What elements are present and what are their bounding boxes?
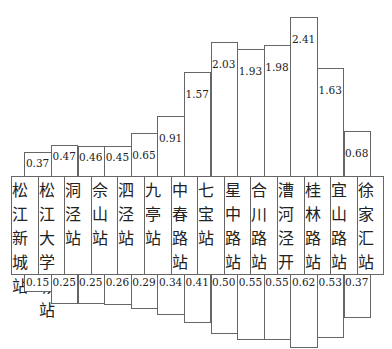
lower-bar-value: 0.53 <box>317 276 344 288</box>
station-label-box: 星中路站 <box>224 176 252 275</box>
lower-bar-value: 0.41 <box>184 276 211 288</box>
upper-bar-value: 1.98 <box>264 61 291 73</box>
station-label-box: 漕河泾开发区 <box>277 176 305 275</box>
station-label-box: 徐家汇站 <box>357 176 385 275</box>
lower-bar-value: 0.15 <box>24 276 51 288</box>
upper-bar-value: 2.03 <box>211 58 238 70</box>
upper-bar-value: 1.93 <box>237 65 264 77</box>
lower-bar-value: 0.25 <box>51 276 78 288</box>
station-name: 佘山站 <box>92 177 118 274</box>
upper-bar-value: 2.41 <box>290 33 317 45</box>
station-name: 洞泾站 <box>65 177 91 274</box>
lower-bar-value: 0.34 <box>157 276 184 288</box>
station-name: 松江新城站 <box>12 177 38 274</box>
lower-bar-value: 0.62 <box>290 276 317 288</box>
station-label-box: 松江新城站 <box>11 176 39 275</box>
upper-bar <box>157 116 185 177</box>
lower-bar-value: 0.29 <box>131 276 158 288</box>
upper-bar-value: 0.68 <box>344 147 371 159</box>
bidirectional-bar-chart: 松江新城站松江大学城站洞泾站佘山站泗泾站九亭站中春路站七宝站星中路站合川路站漕河… <box>0 0 392 349</box>
lower-bar-value: 0.55 <box>264 276 291 288</box>
station-label-box: 七宝站 <box>197 176 225 275</box>
upper-bar-value: 0.37 <box>24 157 51 169</box>
upper-bar-value: 0.46 <box>78 151 105 163</box>
station-name: 合川路站 <box>251 177 277 274</box>
station-name: 松江大学城站 <box>39 177 65 274</box>
upper-bar-value: 0.47 <box>51 150 78 162</box>
station-name: 漕河泾开发区 <box>278 177 304 274</box>
upper-bar-value: 1.63 <box>317 84 344 96</box>
lower-bar-value: 0.55 <box>237 276 264 288</box>
station-label-box: 九亭站 <box>144 176 172 275</box>
lower-bar-value: 0.25 <box>78 276 105 288</box>
upper-bar-value: 0.65 <box>131 149 158 161</box>
upper-bar-value: 1.57 <box>184 88 211 100</box>
station-name: 九亭站 <box>145 177 171 274</box>
station-label-box: 合川路站 <box>250 176 278 275</box>
station-name: 徐家汇站 <box>358 177 384 274</box>
station-name: 桂林路站 <box>305 177 331 274</box>
station-label-box: 桂林路站 <box>304 176 332 275</box>
station-name: 中春路站 <box>172 177 198 274</box>
station-name: 宜山路站 <box>331 177 357 274</box>
station-label-box: 泗泾站 <box>117 176 145 275</box>
station-name: 泗泾站 <box>118 177 144 274</box>
lower-bar-value: 0.50 <box>211 276 238 288</box>
station-name: 星中路站 <box>225 177 251 274</box>
station-label-box: 中春路站 <box>171 176 199 275</box>
station-name: 七宝站 <box>198 177 224 274</box>
upper-bar-value: 0.91 <box>157 132 184 144</box>
station-label-box: 松江大学城站 <box>38 176 66 275</box>
station-label-box: 洞泾站 <box>64 176 92 275</box>
lower-bar-value: 0.26 <box>104 276 131 288</box>
upper-bar-value: 0.45 <box>104 151 131 163</box>
lower-bar-value: 0.37 <box>344 276 371 288</box>
station-label-box: 宜山路站 <box>330 176 358 275</box>
station-label-box: 佘山站 <box>91 176 119 275</box>
